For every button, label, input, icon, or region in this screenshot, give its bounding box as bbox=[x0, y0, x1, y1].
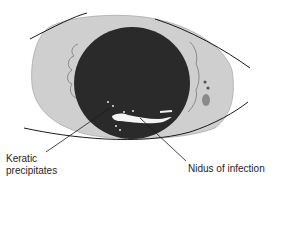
lesion-spot bbox=[203, 80, 206, 83]
lesion-spot bbox=[206, 86, 209, 89]
nidus-streak bbox=[160, 111, 172, 112]
lesion-spot bbox=[202, 94, 210, 106]
keratic-precipitates-label: Keratic precipitates bbox=[6, 153, 57, 177]
label-line: precipitates bbox=[6, 165, 57, 177]
label-line: Keratic bbox=[6, 153, 57, 165]
nidus-label: Nidus of infection bbox=[188, 163, 265, 175]
